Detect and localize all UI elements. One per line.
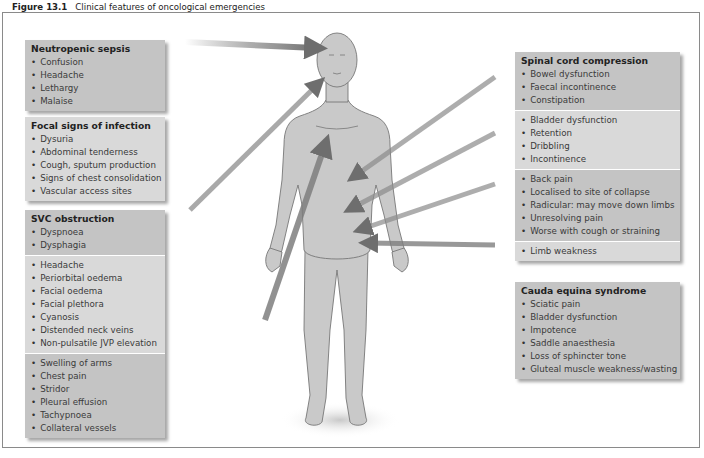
- list-item: Swelling of arms: [31, 357, 159, 370]
- box-cauda-equina-syndrome: Cauda equina syndrome Sciatic pain Bladd…: [515, 282, 680, 379]
- list-item: Saddle anaesthesia: [521, 337, 674, 350]
- box-title: SVC obstruction: [31, 213, 159, 225]
- list-item: Bowel dysfunction: [521, 68, 674, 81]
- list-item: Headache: [31, 259, 159, 272]
- list-item: Dribbling: [521, 140, 674, 153]
- list-item: Dysuria: [31, 133, 159, 146]
- box-neutropenic-sepsis: Neutropenic sepsis Confusion Headache Le…: [25, 40, 165, 111]
- list-item: Incontinence: [521, 153, 674, 166]
- arrow-spinal-4: [368, 243, 495, 245]
- list-item: Abdominal tenderness: [31, 146, 159, 159]
- list-item: Limb weakness: [521, 245, 674, 258]
- list-item: Dysphagia: [31, 239, 159, 252]
- list-item: Malaise: [31, 95, 159, 108]
- list-item: Radicular: may move down limbs: [521, 199, 674, 212]
- list-item: Loss of sphincter tone: [521, 350, 674, 363]
- list-item: Collateral vessels: [31, 422, 159, 435]
- list-item: Headache: [31, 69, 159, 82]
- list-item: Stridor: [31, 383, 159, 396]
- box-title: Spinal cord compression: [521, 55, 674, 67]
- list-item: Bladder dysfunction: [521, 114, 674, 127]
- list-item: Pleural effusion: [31, 396, 159, 409]
- list-item: Worse with cough or straining: [521, 225, 674, 238]
- human-figure: [266, 33, 409, 425]
- list-item: Vascular access sites: [31, 185, 159, 198]
- list-item: Gluteal muscle weakness/wasting: [521, 363, 674, 376]
- box-title: Cauda equina syndrome: [521, 285, 674, 297]
- box-title: Neutropenic sepsis: [31, 43, 159, 55]
- list-item: Periorbital oedema: [31, 272, 159, 285]
- box-svc-obstruction: SVC obstruction Dyspnoea Dysphagia Heada…: [25, 210, 165, 438]
- list-item: Facial plethora: [31, 298, 159, 311]
- list-item: Bladder dysfunction: [521, 311, 674, 324]
- list-item: Distended neck veins: [31, 324, 159, 337]
- list-item: Lethargy: [31, 82, 159, 95]
- list-item: Back pain: [521, 173, 674, 186]
- list-item: Cyanosis: [31, 311, 159, 324]
- list-item: Facial oedema: [31, 285, 159, 298]
- box-title: Focal signs of infection: [31, 120, 159, 132]
- list-item: Cough, sputum production: [31, 159, 159, 172]
- list-item: Non-pulsatile JVP elevation: [31, 337, 159, 350]
- list-item: Signs of chest consolidation: [31, 172, 159, 185]
- list-item: Sciatic pain: [521, 298, 674, 311]
- list-item: Faecal incontinence: [521, 81, 674, 94]
- list-item: Tachypnoea: [31, 409, 159, 422]
- list-item: Chest pain: [31, 370, 159, 383]
- list-item: Confusion: [31, 56, 159, 69]
- list-item: Constipation: [521, 94, 674, 107]
- list-item: Retention: [521, 127, 674, 140]
- arrow-neutropenic: [185, 42, 316, 48]
- box-focal-signs-of-infection: Focal signs of infection Dysuria Abdomin…: [25, 117, 165, 201]
- list-item: Impotence: [521, 324, 674, 337]
- box-spinal-cord-compression: Spinal cord compression Bowel dysfunctio…: [515, 52, 680, 261]
- list-item: Unresolving pain: [521, 212, 674, 225]
- list-item: Dyspnoea: [31, 226, 159, 239]
- list-item: Localised to site of collapse: [521, 186, 674, 199]
